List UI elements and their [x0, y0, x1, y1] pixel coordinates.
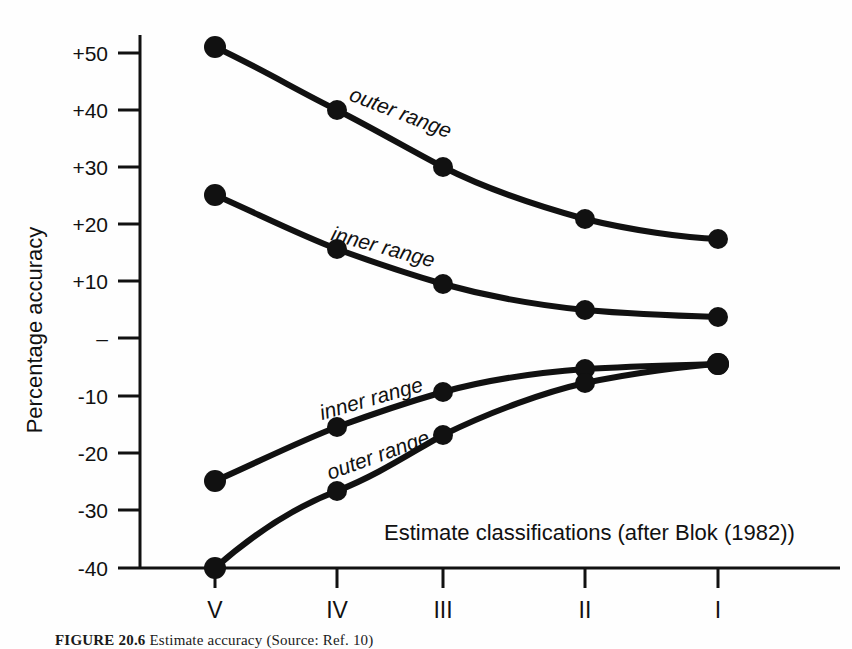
series-outer-range-upper-line	[215, 47, 718, 239]
x-tick-marks	[215, 568, 718, 588]
data-point	[575, 209, 595, 229]
data-point	[204, 36, 226, 58]
data-point	[433, 274, 453, 294]
data-point	[708, 307, 728, 327]
figure-source: (Source: Ref. 10)	[266, 632, 373, 648]
y-tick-label-40: +40	[72, 99, 108, 122]
y-tick-labels: +50 +40 +30 +20 +10 – -10 -20 -30 -40	[72, 42, 108, 580]
y-tick-marks	[118, 53, 140, 568]
y-tick-label-neg30: -30	[78, 499, 108, 522]
y-axis-title: Percentage accuracy	[22, 227, 47, 434]
data-point	[204, 470, 226, 492]
data-point	[575, 373, 595, 393]
data-point	[433, 157, 453, 177]
x-tick-labels: V IV III II I	[207, 597, 721, 623]
data-point	[707, 353, 729, 375]
x-axis-title: Estimate classifications (after Blok (19…	[384, 520, 795, 545]
data-point	[204, 184, 226, 206]
figure-number: FIGURE 20.6	[55, 632, 146, 648]
series-inner-range-upper-line	[215, 195, 718, 317]
series-inner-range-upper-markers	[204, 184, 728, 327]
y-tick-label-neg40: -40	[78, 557, 108, 580]
y-tick-label-neg10: -10	[78, 385, 108, 408]
y-tick-label-10: +10	[72, 270, 108, 293]
y-tick-label-0: –	[96, 327, 108, 350]
x-tick-label-II: II	[579, 597, 592, 623]
data-point	[575, 300, 595, 320]
data-point	[433, 382, 453, 402]
series-outer-range-upper-markers	[204, 36, 728, 249]
y-tick-label-50: +50	[72, 42, 108, 65]
data-point	[204, 557, 226, 579]
x-tick-label-V: V	[207, 597, 223, 623]
data-point	[433, 425, 453, 445]
curve-label-outer-range-upper: outer range	[347, 82, 456, 142]
y-tick-label-30: +30	[72, 156, 108, 179]
x-tick-label-IV: IV	[326, 597, 348, 623]
x-tick-label-I: I	[715, 597, 721, 623]
data-point	[708, 229, 728, 249]
data-point	[327, 481, 347, 501]
figure-caption-text: Estimate accuracy	[150, 632, 263, 648]
data-point	[327, 100, 347, 120]
x-tick-label-III: III	[433, 597, 452, 623]
figure-caption: FIGURE 20.6 Estimate accuracy (Source: R…	[55, 632, 374, 649]
y-tick-label-20: +20	[72, 213, 108, 236]
y-tick-label-neg20: -20	[78, 442, 108, 465]
